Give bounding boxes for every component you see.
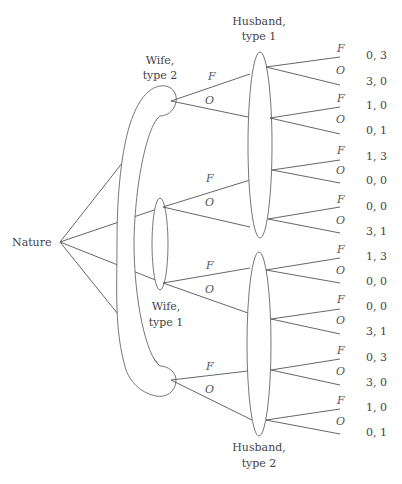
terminal-block-3: F O 1, 3 0, 0 [336,144,387,187]
husband-action-o: O [336,415,345,428]
payoff: 0, 1 [366,124,387,137]
payoff: 0, 0 [366,174,387,187]
wife-action-o: O [205,94,214,107]
payoff: 0, 0 [366,300,387,313]
wife-type1-information-set [152,198,168,290]
husband-type2-information-set [247,252,271,436]
husband-action-o: O [336,64,345,77]
wife-type1-label-line2: type 1 [149,316,184,329]
payoff: 0, 3 [366,351,387,364]
husband-action-f: F [336,293,345,306]
payoff: 0, 1 [366,426,387,439]
husband-action-o: O [336,314,345,327]
husband-type2-label-line2: type 2 [242,457,277,470]
husband-type1-label-line1: Husband, [232,15,286,28]
husband-type1-information-set [248,52,272,238]
game-tree: Nature Wife, type 2 Wife, type 1 Husband… [0,0,402,484]
wife-action-f: F [205,259,214,272]
wife-type2-label-line2: type 2 [143,69,178,82]
husband-action-o: O [336,164,345,177]
wife-action-o: O [205,196,214,209]
terminal-block-8: F O 1, 0 0, 1 [336,394,387,439]
wife-type1-label-line1: Wife, [152,300,181,313]
wife-action-o: O [205,283,214,296]
husband-type1-label-line2: type 1 [242,30,277,43]
husband-action-o: O [336,113,345,126]
husband-action-f: F [336,92,345,105]
payoff: 1, 3 [366,250,387,263]
wife-type2-label-line1: Wife, [146,54,175,67]
husband-action-o: O [336,264,345,277]
terminal-block-4: F O 0, 0 3, 1 [336,193,387,238]
husband-type2-label-line1: Husband, [232,441,286,454]
terminal-block-7: F O 0, 3 3, 0 [336,344,387,389]
husband-action-f: F [336,193,345,206]
husband-action-f: F [336,42,345,55]
husband-edges [266,57,340,434]
husband-action-o: O [336,365,345,378]
payoff: 0, 0 [366,200,387,213]
payoff: 3, 0 [366,376,387,389]
payoff: 0, 0 [366,275,387,288]
wife-action-f: F [205,360,214,373]
terminal-block-5: F O 1, 3 0, 0 [336,243,387,288]
husband-action-f: F [336,394,345,407]
wife-action-o: O [205,383,214,396]
payoff: 3, 1 [366,225,387,238]
payoff: 0, 3 [366,49,387,62]
terminal-block-1: F O 0, 3 3, 0 [336,42,387,88]
terminal-block-6: F O 0, 0 3, 1 [336,293,387,338]
payoff: 3, 1 [366,325,387,338]
payoff: 1, 0 [366,401,387,414]
wife-action-f: F [207,70,216,83]
husband-action-o: O [336,214,345,227]
payoff: 1, 3 [366,150,387,163]
nature-label: Nature [12,236,51,249]
payoff: 1, 0 [366,99,387,112]
husband-action-f: F [336,243,345,256]
husband-action-f: F [336,144,345,157]
wife-action-f: F [205,172,214,185]
payoff: 3, 0 [366,75,387,88]
husband-action-f: F [336,344,345,357]
terminal-block-2: F O 1, 0 0, 1 [336,92,387,137]
